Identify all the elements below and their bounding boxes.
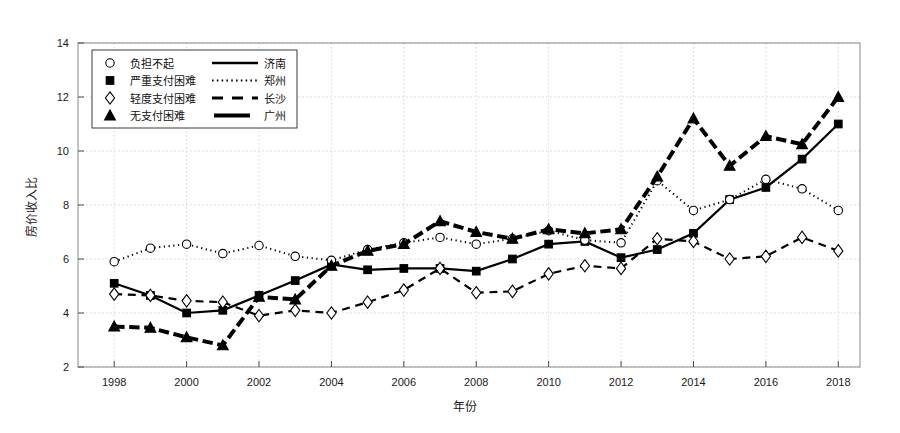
x-tick-label: 2018 [826,376,850,388]
x-tick-label: 2008 [464,376,488,388]
x-tick-label: 2000 [174,376,198,388]
chart-legend: 负担不起济南严重支付困难郑州轻度支付困难长沙无支付困难广州 [92,50,297,128]
x-tick-label: 2016 [754,376,778,388]
legend-city-label: 广州 [264,110,286,123]
y-tick-label: 2 [63,361,69,373]
legend-affordability-label: 负担不起 [130,57,174,71]
data-point-marker-square-filled [110,280,118,288]
y-tick-label: 4 [63,307,69,319]
legend-affordability-label: 严重支付困难 [130,74,196,88]
y-tick-label: 6 [63,253,69,265]
data-point-marker-circle-open [219,249,227,257]
x-tick-label: 1998 [102,376,126,388]
data-point-marker-circle-open [182,240,190,248]
x-tick-label: 2004 [319,376,343,388]
data-point-marker-square-filled [106,77,114,85]
data-point-marker-circle-open [689,206,697,214]
y-axis-title: 房价收入比 [24,177,39,237]
data-point-marker-circle-open [472,240,480,248]
data-point-marker-circle-open [106,59,114,67]
data-point-marker-circle-open [798,185,806,193]
data-point-marker-square-filled [545,240,553,248]
legend-affordability-label: 轻度支付困难 [130,92,196,106]
y-tick-label: 12 [57,91,69,103]
data-point-marker-circle-open [834,206,842,214]
data-point-marker-square-filled [834,120,842,128]
data-point-marker-square-filled [798,155,806,163]
data-point-marker-circle-open [436,233,444,241]
data-point-marker-square-filled [509,255,517,263]
data-point-marker-square-filled [653,246,661,254]
data-point-marker-square-filled [762,184,770,192]
data-point-marker-square-filled [183,309,191,317]
data-point-marker-circle-open [146,244,154,252]
legend-city-label: 济南 [264,57,286,71]
data-point-marker-circle-open [725,195,733,203]
data-point-marker-circle-open [110,258,118,266]
y-tick-label: 8 [63,199,69,211]
y-tick-label: 10 [57,145,69,157]
x-tick-label: 2006 [392,376,416,388]
legend-affordability-label: 无支付困难 [130,110,185,123]
data-point-marker-circle-open [255,241,263,249]
house-price-to-income-ratio-line-chart: 2468101214 19982000200220042006200820102… [0,0,900,433]
data-point-marker-square-filled [617,254,625,262]
x-tick-label: 2010 [536,376,560,388]
data-point-marker-square-filled [291,277,299,285]
chart-figure: 2468101214 19982000200220042006200820102… [0,0,900,433]
x-tick-label: 2012 [609,376,633,388]
y-tick-label: 14 [57,37,69,49]
data-point-marker-square-filled [472,267,480,275]
x-axis-title: 年份 [453,400,477,414]
x-tick-label: 2014 [681,376,705,388]
data-point-marker-square-filled [400,265,408,273]
data-point-marker-circle-open [291,252,299,260]
legend-city-label: 长沙 [264,93,286,106]
x-tick-label: 2002 [247,376,271,388]
legend-city-label: 郑州 [264,74,286,88]
data-point-marker-circle-open [762,175,770,183]
data-point-marker-square-filled [364,266,372,274]
data-point-marker-circle-open [617,239,625,247]
